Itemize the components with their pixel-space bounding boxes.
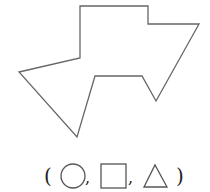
composite-polygon-figure [19,6,199,137]
square-option-icon[interactable] [101,164,126,188]
triangle-option-icon[interactable] [144,165,167,187]
comma-2: , [128,168,133,187]
comma-1: , [85,168,90,187]
circle-option-icon[interactable] [61,164,85,188]
close-paren: ) [176,164,184,188]
open-paren: ( [44,164,52,188]
